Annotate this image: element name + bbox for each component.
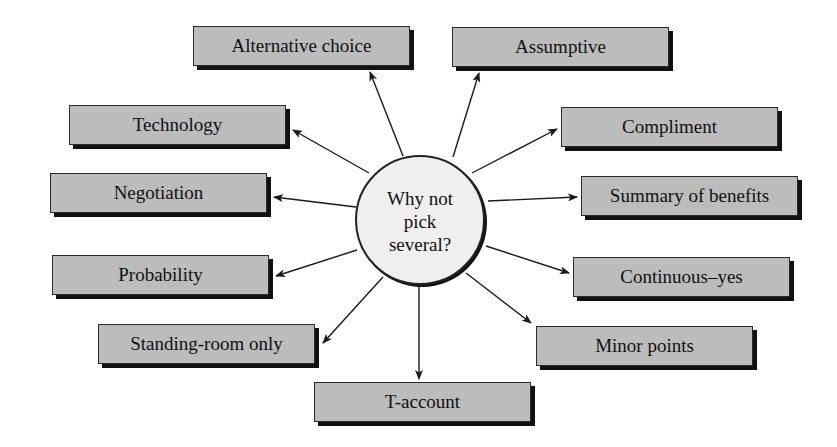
arrow-to-probability <box>276 250 357 276</box>
node-label: Standing-room only <box>130 333 283 355</box>
arrow-to-standing-room-only <box>323 277 383 343</box>
node-t-account: T-account <box>314 382 531 422</box>
node-label: Continuous–yes <box>620 266 742 288</box>
node-label: T-account <box>385 391 460 413</box>
node-standing-room-only: Standing-room only <box>98 324 315 364</box>
arrow-to-technology <box>293 130 369 173</box>
node-technology: Technology <box>69 105 286 145</box>
arrow-to-negotiation <box>274 197 356 207</box>
node-minor-points: Minor points <box>536 326 753 366</box>
arrow-to-assumptive <box>453 73 479 157</box>
node-label: Minor points <box>595 335 694 357</box>
arrow-to-minor-points <box>466 273 531 323</box>
central-question-circle: Why not pick several? <box>355 155 485 285</box>
node-label: Alternative choice <box>232 35 372 57</box>
node-alternative-choice: Alternative choice <box>193 26 410 66</box>
node-label: Technology <box>133 114 222 136</box>
arrow-to-alternative-choice <box>370 72 403 156</box>
arrow-to-continuous-yes <box>486 246 569 273</box>
arrow-to-compliment <box>472 129 557 173</box>
node-continuous-yes: Continuous–yes <box>573 257 790 297</box>
node-label: Summary of benefits <box>610 185 769 207</box>
node-label: Assumptive <box>515 36 606 58</box>
node-label: Negotiation <box>114 182 204 204</box>
central-question-text: Why not pick several? <box>387 185 453 256</box>
node-assumptive: Assumptive <box>452 27 669 67</box>
sales-closing-techniques-diagram: Why not pick several? Alternative choice… <box>0 0 837 447</box>
node-label: Probability <box>118 264 202 286</box>
node-compliment: Compliment <box>561 107 778 147</box>
node-summary-of-benefits: Summary of benefits <box>581 176 798 216</box>
arrow-to-summary-of-benefits <box>488 197 577 201</box>
node-label: Compliment <box>622 116 717 138</box>
node-probability: Probability <box>52 255 269 295</box>
node-negotiation: Negotiation <box>50 173 267 213</box>
